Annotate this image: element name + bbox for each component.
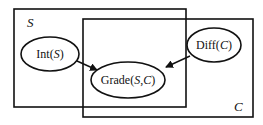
node-int-label-prefix: Int( [36, 47, 53, 61]
plate-s-label: S [27, 15, 34, 30]
node-grade-label-suffix: ) [151, 73, 155, 87]
node-grade: Grade(S,C) [91, 62, 165, 98]
node-int: Int(S) [21, 37, 79, 71]
svg-text:Int(S): Int(S) [36, 47, 63, 61]
plate-diagram: S C Int(S) Diff(C) Grade(S,C) [0, 0, 263, 125]
node-diff-label-prefix: Diff( [196, 38, 220, 52]
edge-int-to-grade [77, 61, 97, 70]
node-diff-label-suffix: ) [228, 38, 232, 52]
plate-c-label: C [234, 99, 243, 114]
node-int-label-suffix: ) [60, 47, 64, 61]
node-grade-label-prefix: Grade( [101, 73, 134, 87]
node-diff: Diff(C) [187, 28, 241, 62]
svg-text:Grade(S,C): Grade(S,C) [101, 73, 155, 87]
svg-text:Diff(C): Diff(C) [196, 38, 232, 52]
